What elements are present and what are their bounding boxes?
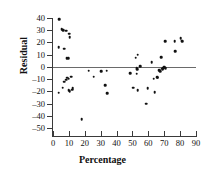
data-point: [153, 91, 156, 94]
data-point: [106, 92, 109, 95]
data-point: [57, 46, 60, 49]
data-point: [80, 118, 83, 121]
y-axis-tick: [47, 42, 52, 43]
x-axis-tick-label: 90: [184, 139, 205, 148]
data-point: [145, 102, 148, 105]
data-point: [58, 18, 61, 21]
y-axis-tick: [47, 104, 52, 105]
data-point: [165, 67, 168, 70]
data-point: [146, 87, 149, 90]
data-point: [100, 70, 103, 73]
x-axis-tick: [164, 131, 165, 136]
data-point: [87, 69, 90, 72]
zero-reference-line: [53, 67, 196, 68]
y-axis-tick: [47, 79, 52, 80]
data-point: [150, 61, 153, 64]
data-point: [136, 68, 139, 71]
x-axis-tick: [85, 131, 86, 136]
x-axis-tick: [69, 131, 70, 136]
x-axis-tick: [53, 131, 54, 136]
plot-area: [53, 18, 196, 128]
data-point: [67, 57, 70, 60]
data-point: [65, 30, 68, 33]
y-axis-tick: [47, 18, 52, 19]
data-point: [139, 65, 142, 68]
data-point: [71, 87, 74, 90]
data-point: [174, 50, 177, 53]
x-axis-tick: [148, 131, 149, 136]
data-point: [70, 75, 73, 78]
data-point: [136, 89, 139, 92]
y-axis-tick: [47, 67, 52, 68]
data-point: [61, 86, 64, 89]
x-axis-tick: [117, 131, 118, 136]
data-point: [137, 53, 140, 56]
y-axis-tick-label: –30: [15, 99, 45, 108]
y-axis-tick: [47, 55, 52, 56]
data-point: [134, 56, 137, 59]
y-axis-tick-label: 40: [15, 14, 45, 23]
y-axis-tick: [47, 91, 52, 92]
data-point: [164, 40, 167, 43]
data-point: [105, 69, 108, 72]
y-axis-tick-label: 30: [15, 26, 45, 35]
y-axis-tick: [47, 128, 52, 129]
y-axis-tick-label: 20: [15, 38, 45, 47]
data-point: [92, 75, 95, 78]
data-point: [157, 77, 160, 80]
x-axis-line: [52, 136, 197, 137]
y-axis-tick-label: 0: [15, 63, 45, 72]
x-axis-tick: [101, 131, 102, 136]
data-point: [181, 40, 184, 43]
data-point: [135, 72, 138, 75]
y-axis-tick-label: –10: [15, 75, 45, 84]
data-point: [63, 47, 66, 50]
data-point: [129, 72, 132, 75]
y-axis-tick: [47, 30, 52, 31]
data-point: [132, 86, 135, 89]
y-axis-tick-label: –20: [15, 87, 45, 96]
x-axis-title: Percentage: [0, 154, 205, 165]
data-point: [104, 84, 107, 87]
data-point: [160, 56, 163, 59]
x-axis-tick: [132, 131, 133, 136]
y-axis-tick-label: –50: [15, 124, 45, 133]
x-axis-tick: [180, 131, 181, 136]
data-point: [57, 91, 60, 94]
y-axis-tick: [47, 116, 52, 117]
data-point: [173, 40, 176, 43]
scatter-plot-figure: Residual 403020100–10–20–30–40–50 010203…: [0, 0, 205, 176]
data-point: [69, 36, 72, 39]
x-axis-tick: [196, 131, 197, 136]
y-axis-tick-label: 10: [15, 50, 45, 59]
y-axis-tick-label: –40: [15, 112, 45, 121]
